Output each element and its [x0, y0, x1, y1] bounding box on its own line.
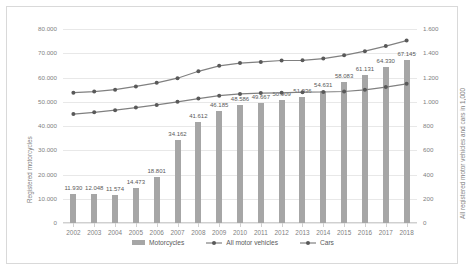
- x-axis-tick-label: 2005: [129, 229, 143, 236]
- y-axis-right-tick-label: 600: [423, 146, 463, 153]
- y-axis-left-tick-label: 30.000: [11, 146, 57, 153]
- x-axis-tick-label: 2018: [399, 229, 413, 236]
- x-axis-tick-label: 2014: [316, 229, 330, 236]
- x-axis-tick-label: 2016: [358, 229, 372, 236]
- x-axis-tick: [323, 223, 324, 227]
- y-axis-right-tick-label: 200: [423, 195, 463, 202]
- y-axis-left-tick-label: 50.000: [11, 98, 57, 105]
- line-marker: [113, 88, 117, 92]
- x-axis-tick-label: 2003: [87, 229, 101, 236]
- line-marker: [71, 91, 75, 95]
- line-marker: [217, 64, 221, 68]
- legend-line-marker-icon: [300, 240, 316, 246]
- x-axis-tick: [94, 223, 95, 227]
- x-axis-tick: [198, 223, 199, 227]
- line-marker: [259, 60, 263, 64]
- y-axis-left-tick-label: 60.000: [11, 74, 57, 81]
- line-marker: [238, 61, 242, 65]
- line-marker: [134, 84, 138, 88]
- line-marker: [342, 90, 346, 94]
- line-marker: [92, 90, 96, 94]
- line-marker: [384, 85, 388, 89]
- x-axis-tick-label: 2002: [66, 229, 80, 236]
- line-marker: [321, 90, 325, 94]
- line-path: [73, 41, 406, 93]
- legend-line-marker-icon: [206, 240, 222, 246]
- y-axis-left-tick-label: 20.000: [11, 171, 57, 178]
- x-axis-tick: [302, 223, 303, 227]
- y-axis-right-tick-label: 400: [423, 171, 463, 178]
- line-marker: [342, 53, 346, 57]
- y-axis-left-tick-label: 10.000: [11, 195, 57, 202]
- legend-item[interactable]: Motorcycles: [132, 239, 184, 246]
- x-axis-tick-label: 2010: [233, 229, 247, 236]
- y-axis-right-tick-label: 1.200: [423, 74, 463, 81]
- y-axis-left-tick-label: 0: [11, 219, 57, 226]
- x-axis-tick: [344, 223, 345, 227]
- y-axis-left-tick-label: 80.000: [11, 25, 57, 32]
- x-axis-tick-label: 2013: [295, 229, 309, 236]
- legend-bar-swatch-icon: [132, 240, 145, 245]
- line-marker: [363, 88, 367, 92]
- line-marker: [301, 90, 305, 94]
- line-marker: [196, 97, 200, 101]
- y-axis-right-tick-label: 1.400: [423, 49, 463, 56]
- x-axis-tick: [365, 223, 366, 227]
- legend-item[interactable]: All motor vehicles: [206, 239, 278, 246]
- line-marker: [134, 106, 138, 110]
- line-marker: [71, 112, 75, 116]
- line-marker: [238, 92, 242, 96]
- x-axis-tick-label: 2012: [275, 229, 289, 236]
- y-axis-left-title: Registered motorcycles: [26, 136, 33, 203]
- line-marker: [196, 69, 200, 73]
- x-axis-tick: [73, 223, 74, 227]
- x-axis-tick: [219, 223, 220, 227]
- y-axis-right-tick-label: 0: [423, 219, 463, 226]
- x-axis-tick-label: 2011: [254, 229, 268, 236]
- line-marker: [176, 100, 180, 104]
- chart-frame: 010.00020.00030.00040.00050.00060.00070.…: [6, 6, 458, 264]
- y-axis-right-tick-label: 800: [423, 122, 463, 129]
- legend-label: Motorcycles: [149, 239, 184, 246]
- line-marker: [363, 49, 367, 53]
- x-axis-tick: [407, 223, 408, 227]
- line-marker: [155, 81, 159, 85]
- line-marker: [259, 91, 263, 95]
- x-axis-tick: [136, 223, 137, 227]
- y-axis-right-tick-label: 1.000: [423, 98, 463, 105]
- x-axis-tick-label: 2015: [337, 229, 351, 236]
- line-marker: [405, 39, 409, 43]
- x-axis-tick-label: 2004: [108, 229, 122, 236]
- line-marker: [155, 103, 159, 107]
- y-axis-right-tick-label: 1.600: [423, 25, 463, 32]
- line-marker: [176, 76, 180, 80]
- plot-area: 11.93012.04811.57414.47318.80134.16241.6…: [63, 29, 417, 223]
- line-marker: [113, 108, 117, 112]
- x-axis-tick-label: 2006: [150, 229, 164, 236]
- x-axis-tick: [178, 223, 179, 227]
- x-axis-tick: [386, 223, 387, 227]
- x-axis-tick: [282, 223, 283, 227]
- y-axis-left-tick-label: 40.000: [11, 122, 57, 129]
- x-axis-tick-label: 2009: [212, 229, 226, 236]
- legend-item[interactable]: Cars: [300, 239, 334, 246]
- x-axis-tick: [157, 223, 158, 227]
- line-marker: [405, 82, 409, 86]
- x-axis-tick: [261, 223, 262, 227]
- x-axis-tick-label: 2008: [191, 229, 205, 236]
- y-axis-right-title: All registered motor vehicles and cars i…: [459, 88, 466, 219]
- x-axis-tick-label: 2017: [379, 229, 393, 236]
- line-marker: [384, 44, 388, 48]
- x-axis-tick-label: 2007: [170, 229, 184, 236]
- line-marker: [301, 58, 305, 62]
- line-marker: [280, 91, 284, 95]
- line-marker: [280, 59, 284, 63]
- line-series-group: [63, 29, 417, 223]
- line-marker: [321, 57, 325, 61]
- legend-label: All motor vehicles: [226, 239, 278, 246]
- x-axis-tick: [115, 223, 116, 227]
- legend-label: Cars: [320, 239, 334, 246]
- chart-legend: MotorcyclesAll motor vehiclesCars: [7, 239, 459, 246]
- y-axis-left-tick-label: 70.000: [11, 49, 57, 56]
